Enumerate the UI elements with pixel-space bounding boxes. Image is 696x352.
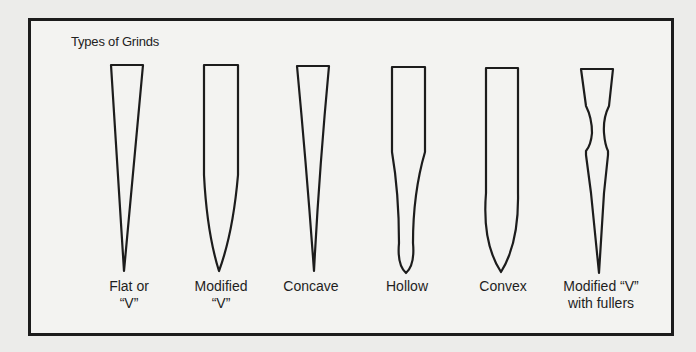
label-concave: Concave (271, 278, 351, 295)
label-line: “V” (181, 295, 261, 312)
label-line: Hollow (367, 278, 447, 295)
label-line: Flat or (89, 278, 169, 295)
label-line: Concave (271, 278, 351, 295)
modified-v-grind-shape (204, 65, 238, 271)
label-modified-v-fullers: Modified “V” with fullers (546, 278, 656, 312)
label-line: with fullers (546, 295, 656, 312)
label-hollow: Hollow (367, 278, 447, 295)
convex-grind-shape (485, 68, 518, 272)
label-line: Modified (181, 278, 261, 295)
diagram-frame: Types of Grinds Flat or “V” Modified “V”… (28, 18, 674, 336)
label-line: “V” (89, 295, 169, 312)
label-line: Modified “V” (546, 278, 656, 295)
label-convex: Convex (463, 278, 543, 295)
concave-grind-shape (297, 66, 329, 271)
modified-v-fullers-grind-shape (581, 69, 613, 273)
label-modified-v: Modified “V” (181, 278, 261, 312)
label-line: Convex (463, 278, 543, 295)
label-flat: Flat or “V” (89, 278, 169, 312)
flat-grind-shape (111, 65, 143, 271)
hollow-grind-shape (392, 67, 425, 273)
